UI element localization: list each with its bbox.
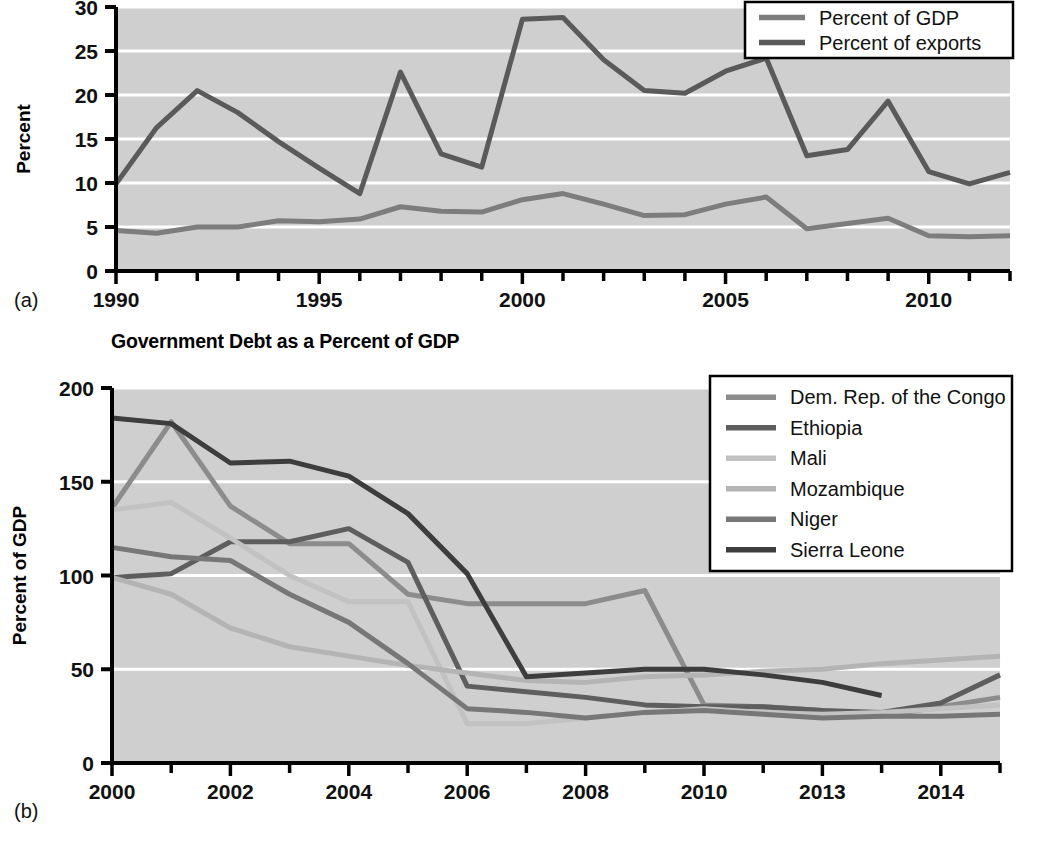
- y-axis-tick-label: 0: [82, 752, 94, 775]
- x-axis-tick-label: 2005: [702, 288, 749, 311]
- x-axis-tick-label: 2004: [325, 780, 372, 803]
- chart-b-title: Government Debt as a Percent of GDP: [111, 330, 459, 353]
- y-axis-tick-label: 50: [71, 658, 94, 681]
- legend-label: Mali: [790, 447, 827, 469]
- y-axis-tick-label: 15: [75, 128, 99, 151]
- legend-label: Mozambique: [790, 478, 905, 500]
- y-axis-tick-label: 150: [59, 471, 94, 494]
- panel-b-label: (b): [14, 800, 38, 823]
- y-axis-tick-label: 5: [86, 216, 98, 239]
- figure-container: 05101520253019901995200020052010PercentP…: [0, 0, 1047, 844]
- x-axis-tick-label: 2008: [562, 780, 609, 803]
- panel-a-label: (a): [14, 289, 38, 312]
- y-axis-tick-label: 200: [59, 377, 94, 400]
- y-axis-tick-label: 0: [86, 260, 98, 283]
- x-axis-tick-label: 2013: [799, 780, 846, 803]
- y-axis-tick-label: 25: [75, 40, 99, 63]
- x-axis-tick-label: 2002: [207, 780, 254, 803]
- x-axis-tick-label: 2006: [444, 780, 491, 803]
- legend-label: Percent of exports: [819, 32, 981, 54]
- x-axis-tick-label: 2000: [89, 780, 136, 803]
- y-axis-tick-label: 20: [75, 84, 98, 107]
- x-axis-tick-label: 2014: [917, 780, 964, 803]
- legend-label: Niger: [790, 508, 838, 530]
- y-axis-tick-label: 10: [75, 172, 98, 195]
- y-axis-tick-label: 30: [75, 0, 98, 19]
- chart-a-canvas: 05101520253019901995200020052010PercentP…: [0, 0, 1047, 320]
- x-axis-tick-label: 1995: [296, 288, 343, 311]
- y-axis-title: Percent of GDP: [9, 505, 30, 645]
- legend-label: Ethiopia: [790, 417, 863, 439]
- y-axis-tick-label: 100: [59, 565, 94, 588]
- legend-label: Sierra Leone: [790, 539, 905, 561]
- x-axis-tick-label: 2010: [905, 288, 952, 311]
- x-axis-tick-label: 2000: [499, 288, 546, 311]
- x-axis-tick-label: 1990: [93, 288, 140, 311]
- x-axis-tick-label: 2010: [681, 780, 728, 803]
- legend-label: Dem. Rep. of the Congo: [790, 386, 1006, 408]
- y-axis-title: Percent: [13, 103, 34, 173]
- chart-b-canvas: 0501001502002000200220042006200820102013…: [0, 368, 1047, 828]
- legend-label: Percent of GDP: [819, 7, 959, 29]
